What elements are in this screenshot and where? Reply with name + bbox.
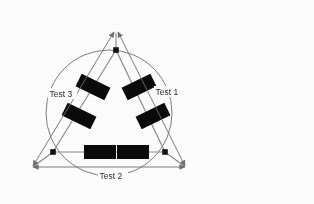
wire-right-leg (116, 50, 165, 152)
node-bottom-right (162, 149, 168, 155)
wire-left-leg (53, 50, 116, 152)
resistor-r4 (117, 145, 149, 159)
resistor-test-diagram: Test 3 Test 1 Test 2 (0, 0, 314, 204)
diagram-canvas: Test 3 Test 1 Test 2 (0, 0, 314, 204)
label-test2: Test 2 (100, 171, 123, 181)
resistor-r3 (84, 145, 116, 159)
delta-wires (53, 50, 165, 152)
node-top (113, 47, 119, 53)
node-bottom-left (50, 149, 56, 155)
resistor-r1 (122, 74, 157, 101)
label-test3: Test 3 (50, 89, 73, 99)
resistor-r6 (62, 103, 97, 130)
label-test1: Test 1 (156, 87, 179, 97)
resistor-r2 (136, 103, 171, 130)
